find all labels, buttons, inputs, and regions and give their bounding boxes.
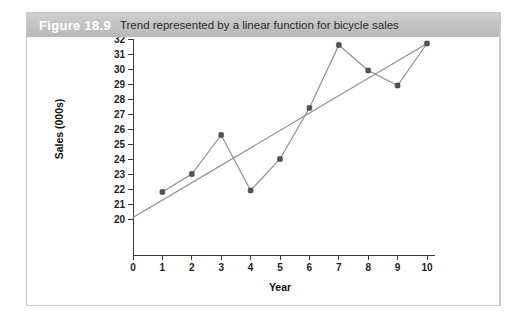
figure-caption: Trend represented by a linear function f… (120, 19, 399, 31)
data-point-marker (336, 43, 341, 48)
data-point-marker (395, 83, 400, 88)
x-tick-label: 7 (336, 262, 342, 273)
y-axis-title: Sales (000s) (53, 99, 65, 160)
x-axis-title: Year (269, 281, 291, 293)
y-tick-label: 20 (114, 214, 126, 225)
y-tick-label: 32 (114, 37, 126, 45)
chart-area: 20212223242526272829303132 012345678910 … (27, 37, 500, 305)
y-tick-label: 25 (114, 139, 126, 150)
figure-panel: Figure 18.9 Trend represented by a linea… (26, 12, 501, 306)
x-tick-label: 4 (248, 262, 254, 273)
x-tick-label: 9 (395, 262, 401, 273)
y-tick-label: 27 (114, 109, 126, 120)
y-tick-label: 24 (114, 154, 126, 165)
x-tick-label: 3 (218, 262, 224, 273)
y-tick-label: 30 (114, 64, 126, 75)
data-point-marker (248, 188, 253, 193)
y-tick-label: 21 (114, 199, 126, 210)
x-axis: 012345678910 (130, 255, 435, 273)
data-point-markers (160, 41, 429, 194)
x-tick-label: 10 (421, 262, 433, 273)
figure-body: 20212223242526272829303132 012345678910 … (27, 37, 499, 305)
x-tick-label: 6 (307, 262, 313, 273)
y-tick-label: 26 (114, 124, 126, 135)
data-point-marker (189, 172, 194, 177)
sales-data-series (162, 44, 427, 193)
figure-header-bar: Figure 18.9 Trend represented by a linea… (27, 13, 499, 37)
y-tick-label: 22 (114, 184, 126, 195)
data-point-marker (425, 41, 430, 46)
y-tick-label: 28 (114, 94, 126, 105)
x-tick-label: 5 (277, 262, 283, 273)
figure-number: Figure 18.9 (39, 18, 111, 33)
y-tick-label: 29 (114, 79, 126, 90)
x-tick-label: 1 (160, 262, 166, 273)
y-tick-label: 31 (114, 49, 126, 60)
data-point-marker (160, 190, 165, 195)
line-chart: 20212223242526272829303132 012345678910 … (27, 37, 500, 305)
data-point-marker (366, 68, 371, 73)
x-tick-label: 0 (130, 262, 136, 273)
data-point-marker (278, 157, 283, 162)
y-tick-label: 23 (114, 169, 126, 180)
trend-line-series (133, 44, 427, 218)
y-axis: 20212223242526272829303132 (114, 37, 133, 255)
data-point-marker (307, 106, 312, 111)
x-tick-label: 8 (365, 262, 371, 273)
x-tick-label: 2 (189, 262, 195, 273)
data-point-marker (219, 133, 224, 138)
